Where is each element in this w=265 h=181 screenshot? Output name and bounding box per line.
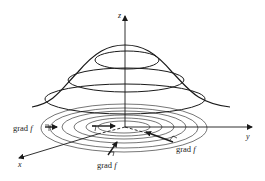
surface-outline [32, 45, 230, 107]
svg-text:grad f: grad f [13, 123, 34, 133]
grad-label-bottom: grad f [97, 160, 118, 170]
grad-label-right: grad f [176, 144, 197, 154]
svg-text:grad f: grad f [176, 144, 197, 154]
diagram-canvas: z y x grad f grad f grad f [0, 0, 265, 181]
y-axis-label: y [245, 132, 250, 141]
svg-text:grad f: grad f [97, 160, 118, 170]
z-axis-label: z [117, 11, 122, 20]
gradient-diagram: z y x grad f grad f grad f [0, 0, 265, 181]
grad-label-left: grad f [13, 123, 34, 133]
axes [19, 16, 252, 158]
grad-vector-bottom [108, 142, 117, 155]
x-axis-label: x [17, 160, 22, 169]
